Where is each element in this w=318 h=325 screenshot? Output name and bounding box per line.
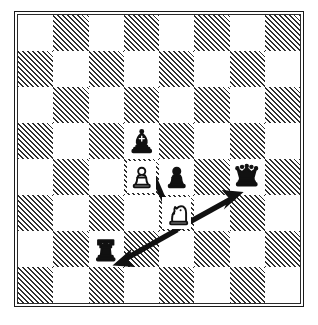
piece-slot-7-2 bbox=[265, 87, 300, 123]
piece-slot-7-1 bbox=[265, 51, 300, 87]
white-pawn-icon bbox=[128, 163, 155, 191]
piece-slot-3-6 bbox=[124, 231, 159, 267]
piece-slot-1-2 bbox=[53, 87, 88, 123]
piece-slot-6-2 bbox=[230, 87, 265, 123]
piece-slot-0-0 bbox=[18, 15, 53, 51]
piece-slot-7-3 bbox=[265, 123, 300, 159]
piece-slot-4-2 bbox=[159, 87, 194, 123]
piece-slot-1-6 bbox=[53, 231, 88, 267]
piece-slot-6-3 bbox=[230, 123, 265, 159]
piece-white-knight[interactable] bbox=[159, 195, 194, 231]
piece-slot-6-6 bbox=[230, 231, 265, 267]
piece-black-rook[interactable] bbox=[89, 231, 124, 267]
piece-slot-6-1 bbox=[230, 51, 265, 87]
piece-black-bishop[interactable] bbox=[124, 123, 159, 159]
black-pawn-icon bbox=[163, 163, 190, 191]
piece-slot-2-0 bbox=[89, 15, 124, 51]
piece-slot-6-7 bbox=[230, 267, 265, 303]
piece-slot-5-6 bbox=[194, 231, 229, 267]
piece-slot-2-2 bbox=[89, 87, 124, 123]
piece-slot-5-2 bbox=[194, 87, 229, 123]
piece-slot-1-4 bbox=[53, 159, 88, 195]
piece-slot-4-1 bbox=[159, 51, 194, 87]
piece-slot-2-4 bbox=[89, 159, 124, 195]
piece-slot-1-5 bbox=[53, 195, 88, 231]
piece-black-pawn[interactable] bbox=[159, 159, 194, 195]
piece-slot-0-1 bbox=[18, 51, 53, 87]
piece-slot-2-1 bbox=[89, 51, 124, 87]
piece-slot-1-0 bbox=[53, 15, 88, 51]
piece-slot-4-3 bbox=[159, 123, 194, 159]
piece-slot-7-6 bbox=[265, 231, 300, 267]
board-inner bbox=[17, 14, 301, 304]
piece-slot-0-7 bbox=[18, 267, 53, 303]
piece-slot-3-5 bbox=[124, 195, 159, 231]
chess-diagram bbox=[0, 0, 318, 325]
piece-slot-2-7 bbox=[89, 267, 124, 303]
piece-white-pawn[interactable] bbox=[124, 159, 159, 195]
piece-slot-1-1 bbox=[53, 51, 88, 87]
piece-slot-7-5 bbox=[265, 195, 300, 231]
piece-slot-2-3 bbox=[89, 123, 124, 159]
piece-slot-5-5 bbox=[194, 195, 229, 231]
piece-layer bbox=[18, 15, 300, 303]
piece-slot-7-0 bbox=[265, 15, 300, 51]
piece-slot-0-5 bbox=[18, 195, 53, 231]
piece-slot-5-0 bbox=[194, 15, 229, 51]
piece-slot-3-2 bbox=[124, 87, 159, 123]
piece-slot-3-0 bbox=[124, 15, 159, 51]
piece-slot-7-7 bbox=[265, 267, 300, 303]
piece-slot-7-4 bbox=[265, 159, 300, 195]
piece-slot-6-0 bbox=[230, 15, 265, 51]
piece-slot-6-5 bbox=[230, 195, 265, 231]
piece-slot-5-7 bbox=[194, 267, 229, 303]
black-rook-icon bbox=[92, 235, 119, 263]
piece-slot-0-4 bbox=[18, 159, 53, 195]
piece-slot-0-2 bbox=[18, 87, 53, 123]
piece-slot-4-0 bbox=[159, 15, 194, 51]
piece-slot-0-3 bbox=[18, 123, 53, 159]
piece-slot-1-7 bbox=[53, 267, 88, 303]
piece-slot-1-3 bbox=[53, 123, 88, 159]
black-queen-icon bbox=[233, 163, 260, 191]
piece-slot-0-6 bbox=[18, 231, 53, 267]
piece-slot-5-3 bbox=[194, 123, 229, 159]
board-frame bbox=[14, 11, 304, 307]
piece-slot-5-4 bbox=[194, 159, 229, 195]
piece-slot-2-5 bbox=[89, 195, 124, 231]
piece-slot-3-1 bbox=[124, 51, 159, 87]
piece-black-queen[interactable] bbox=[230, 159, 265, 195]
piece-slot-4-6 bbox=[159, 231, 194, 267]
piece-slot-5-1 bbox=[194, 51, 229, 87]
piece-slot-3-7 bbox=[124, 267, 159, 303]
white-knight-icon bbox=[163, 199, 190, 227]
black-bishop-icon bbox=[128, 127, 155, 155]
piece-slot-4-7 bbox=[159, 267, 194, 303]
